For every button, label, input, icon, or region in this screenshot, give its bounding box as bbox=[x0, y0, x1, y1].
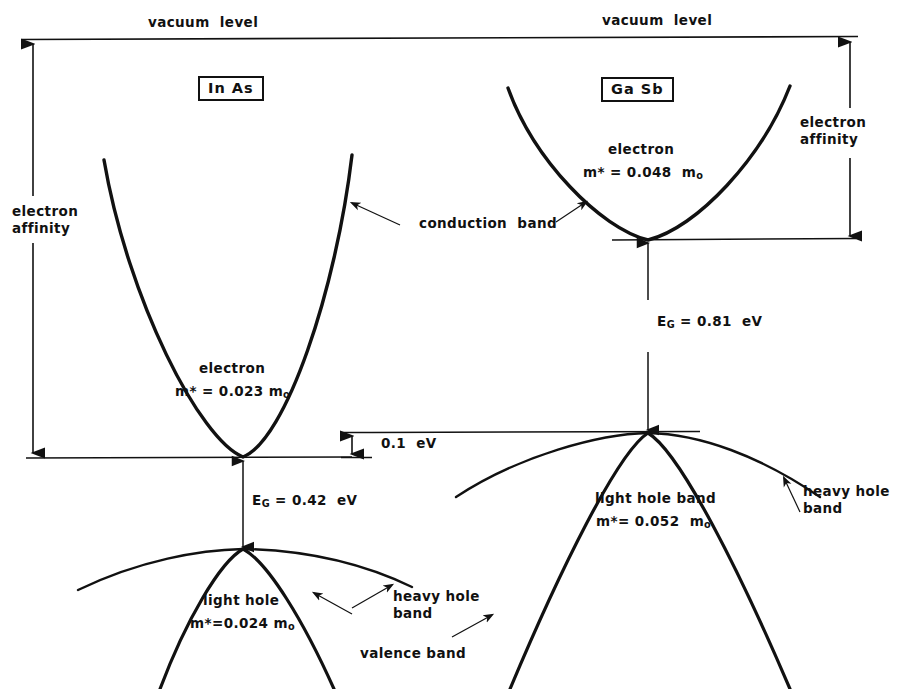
leader-heavy-hole-inas bbox=[352, 585, 392, 608]
gasb-band-gap-label: EG = 0.81 eV bbox=[657, 313, 762, 332]
gasb-electron-mass-subscript: o bbox=[696, 170, 703, 181]
valence-band-label: valence band bbox=[360, 645, 466, 662]
gasb-light-hole-mass-subscript: o bbox=[704, 519, 711, 530]
inas-conduction-band-curve bbox=[104, 155, 352, 457]
vacuum-level-line bbox=[22, 37, 858, 40]
leader-conduction-band-inas bbox=[352, 203, 400, 225]
leader-conduction-band-gasb bbox=[556, 202, 586, 222]
gasb-light-hole-label: light hole band bbox=[595, 490, 716, 507]
electron-affinity-label-left: electron affinity bbox=[12, 203, 78, 237]
inas-electron-mass: m* = 0.023 mo bbox=[175, 383, 290, 402]
gasb-light-hole-mass: m*= 0.052 mo bbox=[596, 513, 711, 532]
inas-band-gap-symbol: E bbox=[252, 492, 262, 508]
inas-light-hole-mass-subscript: o bbox=[288, 621, 295, 632]
inas-band-gap-subscript: G bbox=[262, 498, 270, 509]
inas-heavy-hole-label: heavy hole band bbox=[393, 588, 480, 622]
gasb-electron-mass-text: m* = 0.048 m bbox=[583, 164, 696, 180]
band-offset-marker bbox=[341, 433, 372, 458]
gasb-light-hole-band-curve bbox=[510, 433, 790, 689]
inas-conduction-level-line bbox=[26, 457, 352, 458]
band-diagram-figure: vacuum level vacuum level electron affin… bbox=[0, 0, 905, 689]
gasb-heavy-hole-label: heavy hole band bbox=[803, 483, 890, 517]
gasb-band-gap-symbol: E bbox=[657, 313, 667, 329]
inas-light-hole-mass: m*=0.024 mo bbox=[190, 615, 295, 634]
inas-electron-mass-subscript: o bbox=[283, 389, 290, 400]
inas-band-gap-value: = 0.42 eV bbox=[270, 492, 357, 508]
vacuum-level-label-right: vacuum level bbox=[602, 12, 712, 29]
band-diagram-canvas bbox=[0, 0, 905, 689]
material-box-inas: In As bbox=[198, 76, 264, 101]
inas-light-hole-mass-text: m*=0.024 m bbox=[190, 615, 288, 631]
inas-light-hole-label: light hole bbox=[203, 592, 279, 609]
gasb-band-gap-value: = 0.81 eV bbox=[675, 313, 762, 329]
gasb-light-hole-mass-text: m*= 0.052 m bbox=[596, 513, 704, 529]
electron-affinity-label-right: electron affinity bbox=[800, 114, 866, 148]
gasb-electron-mass: m* = 0.048 mo bbox=[583, 164, 703, 183]
inas-heavy-hole-band-curve bbox=[78, 549, 412, 590]
band-offset-label: 0.1 eV bbox=[381, 435, 437, 452]
gasb-electron-label: electron bbox=[608, 141, 674, 158]
conduction-band-label: conduction band bbox=[419, 215, 557, 232]
inas-band-gap-label: EG = 0.42 eV bbox=[252, 492, 357, 511]
material-box-gasb: Ga Sb bbox=[601, 77, 674, 102]
inas-electron-mass-text: m* = 0.023 m bbox=[175, 383, 283, 399]
vacuum-level-label-left: vacuum level bbox=[148, 14, 258, 31]
inas-electron-label: electron bbox=[199, 360, 265, 377]
gasb-band-gap-subscript: G bbox=[667, 319, 675, 330]
leader-valence-band-inas bbox=[314, 593, 352, 614]
